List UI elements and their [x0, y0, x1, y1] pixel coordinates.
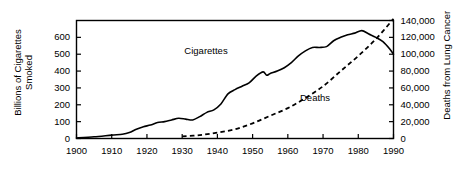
series-line-deaths — [182, 19, 393, 137]
plot-frame — [77, 21, 394, 139]
series-annotation-cigarettes: Cigarettes — [184, 45, 227, 56]
series-line-cigarettes — [77, 31, 394, 138]
tick-marks — [77, 21, 394, 139]
plot-canvas — [0, 0, 473, 172]
chart-figure: Billions of Cigarettes Smoked Deaths fro… — [0, 0, 473, 172]
series-annotation-deaths: Deaths — [300, 92, 330, 103]
